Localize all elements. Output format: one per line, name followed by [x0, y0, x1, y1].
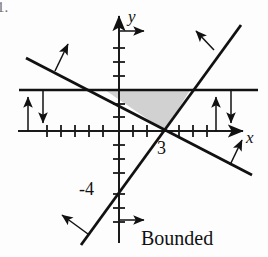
y-axis-label: y [128, 8, 136, 25]
x-intercept-label: 3 [157, 139, 166, 157]
declining-boundary-line [26, 58, 252, 175]
arrow-rising-lower [62, 215, 88, 234]
y-intercept-label: -4 [79, 180, 94, 198]
item-number-label: 1. [0, 0, 8, 15]
axes-group [18, 16, 243, 243]
x-axis-label: x [246, 129, 254, 146]
arrow-declining-upper [55, 44, 68, 71]
arrow-rising-upper [196, 31, 214, 50]
arrow-declining-lower [230, 140, 242, 165]
rising-boundary-line [81, 25, 241, 245]
coordinate-plane-svg [0, 0, 268, 257]
region-caption: Bounded [141, 228, 213, 248]
graph-figure: 1. x y 3 -4 Bounded [0, 0, 268, 257]
